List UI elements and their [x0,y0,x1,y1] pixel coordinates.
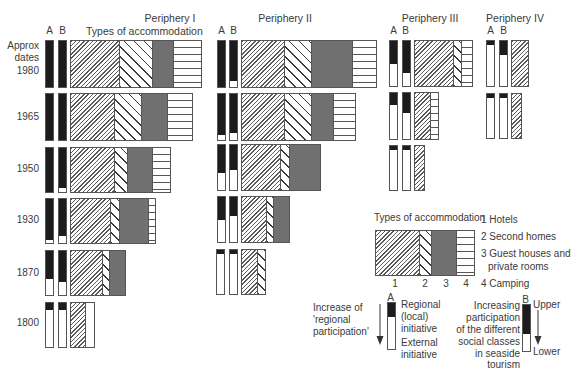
bar-a [389,145,398,191]
hotels-segment [242,145,281,190]
bar-a [45,93,54,141]
second-homes-segment [258,250,265,294]
legend-a-upper-3: initiative [401,323,437,335]
accommodation-bar [241,144,321,191]
accommodation-bar [511,93,522,139]
bar-a [486,93,495,139]
hotels-segment [512,41,528,86]
second-homes-segment [103,251,110,295]
bar-b [402,92,411,140]
guest-houses-segment [312,41,353,87]
camping-segment [431,93,438,139]
bar-a [45,250,54,296]
hotels-segment [71,199,111,243]
second-homes-segment [281,145,290,190]
bar-b [58,40,67,88]
date-1870: 1870 [0,267,39,279]
legend-number-3: 3 [441,278,451,290]
accommodation-bar [241,249,266,295]
col-a-p1: A [45,25,54,37]
accommodation-bar [70,198,156,244]
hotels-segment [71,148,115,192]
legend-a-upper-2: (local) [401,311,428,323]
guest-houses-segment [312,94,335,140]
periphery-4-title: Periphery IV [480,12,550,24]
guest-houses-segment [142,94,169,140]
periphery-1-title: Periphery I [120,12,220,24]
bar-a [217,196,226,243]
legend-number-1: 1 [390,278,400,290]
legend-a-upper-1: Regional [401,299,440,311]
second-homes-segment [454,41,463,86]
accommodation-bar [241,93,356,141]
bar-b [229,249,238,295]
legend-item-guest-houses-2: private rooms [488,261,549,273]
second-homes-swatch [420,231,432,275]
camping-segment [174,41,201,87]
hotels-segment [512,94,521,138]
hotels-segment [71,303,86,347]
legend-b-caption-4: social classes [440,336,520,348]
periphery-3-title: Periphery III [390,12,470,24]
legend-a-caption-1: Increase of [313,302,362,314]
bar-b [229,93,238,141]
guest-houses-segment [290,145,320,190]
hotels-segment [242,250,258,294]
bar-b [229,40,238,88]
guest-houses-swatch [432,231,457,275]
hotels-segment [242,94,285,140]
bar-a [217,144,226,191]
accommodation-bar [70,40,202,88]
bar-b [402,145,411,191]
accommodation-bar [511,40,529,87]
hotels-swatch [376,231,420,275]
legend-b-caption-2: participation [440,312,520,324]
legend-a-caption-2: 'regional [313,314,351,326]
legend-b-caption-1: Increasing [440,300,520,312]
approx-dates-label-2: dates [0,52,39,64]
camping-segment [153,148,170,192]
periphery-2-title: Periphery II [235,12,335,24]
bar-b [58,147,67,193]
accommodation-bar [241,40,377,88]
camping-segment [149,199,155,243]
col-b-p3: B [401,25,410,37]
guest-houses-segment [120,199,149,243]
hotels-segment [415,93,431,139]
hotels-segment [242,197,267,242]
bar-b [58,302,67,348]
bar-a [216,249,225,295]
legend-b-caption-3: of the different [440,324,520,336]
bar-b [229,196,238,243]
bar-a [389,40,398,87]
camping-segment [168,94,192,140]
second-homes-segment [115,94,142,140]
guest-houses-segment [110,251,125,295]
legend-item-guest-houses: 3 Guest houses and [481,248,571,260]
legend-b-upper: Upper [533,299,560,311]
types-of-accommodation-header: Types of accommodation [86,25,203,37]
bar-b [499,93,508,139]
bar-b [499,40,508,87]
second-homes-segment [267,197,274,242]
col-b-p2: B [229,25,238,37]
bar-a [217,40,226,88]
col-b-p4: B [499,25,508,37]
bar-a [45,147,54,193]
second-homes-segment [285,94,312,140]
accommodation-bar [414,92,439,140]
legend-a-caption-3: participation' [313,326,369,338]
camping-segment [462,41,472,86]
legend-item-second-homes: 2 Second homes [481,231,556,243]
col-a-p3: A [389,25,398,37]
bar-b [58,198,67,244]
hotels-segment [71,41,120,87]
date-1965: 1965 [0,111,39,123]
legend-item-camping: 4 Camping [481,278,529,290]
col-a-p2: A [217,25,226,37]
bar-a [45,198,54,244]
guest-houses-segment [128,148,153,192]
bar-a [486,40,495,87]
guest-houses-segment [153,41,175,87]
date-1800: 1800 [0,317,39,329]
